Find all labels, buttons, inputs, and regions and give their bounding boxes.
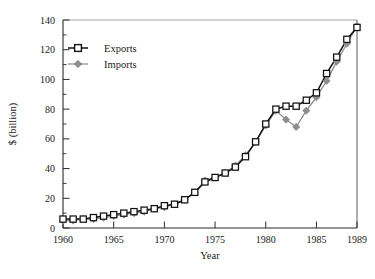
x-axis-tick-label: 1960 (53, 234, 73, 245)
data-point-exports (273, 106, 279, 112)
x-axis-title: Year (200, 250, 220, 261)
data-point-exports (161, 203, 167, 209)
y-axis-tick-label: 140 (40, 15, 55, 26)
x-axis-tick-label: 1965 (104, 234, 124, 245)
y-axis-tick-label: 100 (40, 74, 55, 85)
chart-container: 0204060801001201401960196519701975198019… (0, 0, 375, 279)
data-point-exports (121, 210, 127, 216)
data-point-exports (182, 197, 188, 203)
legend-marker-imports (74, 60, 82, 68)
data-point-exports (90, 215, 96, 221)
data-point-exports (171, 201, 177, 207)
data-point-exports (313, 90, 319, 96)
data-point-exports (131, 209, 137, 215)
x-axis-tick-label: 1975 (205, 234, 225, 245)
chart-plot-area: 0204060801001201401960196519701975198019… (0, 0, 375, 279)
data-point-exports (151, 206, 157, 212)
y-axis-tick-label: 40 (45, 163, 55, 174)
data-point-exports (80, 216, 86, 222)
data-point-exports (293, 103, 299, 109)
data-point-exports (253, 139, 259, 145)
data-point-exports (323, 70, 329, 76)
data-point-exports (192, 189, 198, 195)
data-point-exports (100, 213, 106, 219)
x-axis-tick-label: 1985 (306, 234, 326, 245)
data-point-exports (283, 103, 289, 109)
data-point-exports (70, 216, 76, 222)
data-point-exports (212, 174, 218, 180)
series-line-imports (63, 26, 357, 221)
chart-legend: ExportsImports (68, 43, 137, 70)
x-axis-tick-label: 1989 (347, 234, 367, 245)
data-point-exports (354, 24, 360, 30)
legend-marker-exports (75, 45, 82, 52)
y-axis-title: $ (billion) (7, 102, 19, 145)
y-axis-tick-label: 20 (45, 193, 55, 204)
y-axis-tick-label: 60 (45, 133, 55, 144)
data-point-exports (222, 170, 228, 176)
data-point-exports (242, 154, 248, 160)
series-line-exports (63, 27, 357, 219)
legend-label-exports: Exports (104, 43, 137, 54)
y-axis-tick-label: 120 (40, 44, 55, 55)
data-point-exports (334, 54, 340, 60)
y-axis-tick-label: 80 (45, 104, 55, 115)
data-point-exports (111, 212, 117, 218)
legend-label-imports: Imports (104, 59, 137, 70)
data-point-exports (344, 36, 350, 42)
data-point-exports (303, 97, 309, 103)
x-axis-tick-label: 1970 (154, 234, 174, 245)
data-point-exports (141, 207, 147, 213)
data-point-exports (202, 179, 208, 185)
x-axis-tick-label: 1980 (256, 234, 276, 245)
y-axis-tick-label: 0 (50, 223, 55, 234)
data-point-exports (263, 121, 269, 127)
data-point-exports (60, 216, 66, 222)
data-point-exports (232, 164, 238, 170)
